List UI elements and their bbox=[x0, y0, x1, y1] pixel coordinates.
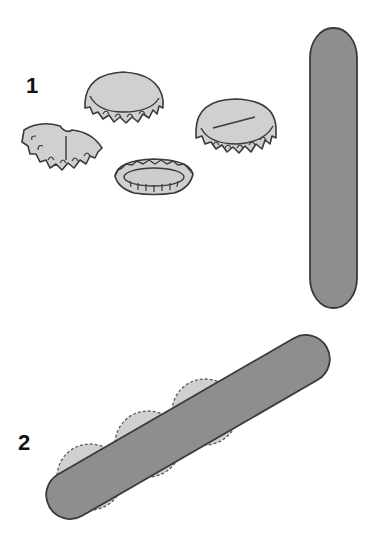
illustration bbox=[0, 0, 380, 550]
cap-bent bbox=[22, 124, 102, 170]
cap-right bbox=[196, 99, 276, 153]
cap-top-middle bbox=[85, 72, 163, 123]
stick-diagonal bbox=[37, 326, 338, 528]
cap-upside-down bbox=[115, 159, 193, 195]
stick-vertical bbox=[310, 28, 357, 308]
